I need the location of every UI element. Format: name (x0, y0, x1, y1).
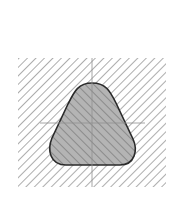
cross-section-diagram (0, 0, 181, 203)
